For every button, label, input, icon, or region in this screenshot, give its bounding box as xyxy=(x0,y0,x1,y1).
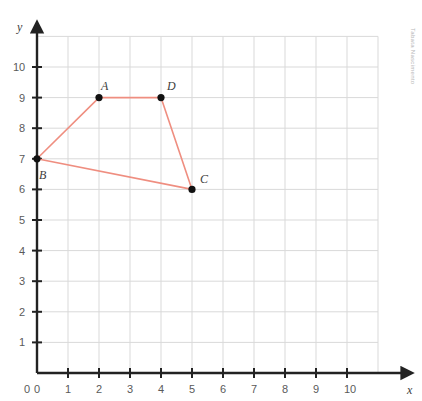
y-tick-label: 9 xyxy=(19,93,25,104)
point-label-d: D xyxy=(167,80,176,92)
origin-label: 0 xyxy=(24,384,30,395)
polygon-edges xyxy=(37,98,192,190)
plot-area xyxy=(0,0,422,401)
y-tick-label: 2 xyxy=(19,307,25,318)
x-axis-label: x xyxy=(407,384,412,396)
point-label-b: B xyxy=(39,169,46,181)
x-tick-label: 2 xyxy=(96,384,102,395)
x-tick-label: 7 xyxy=(251,384,257,395)
x-tick-label: 10 xyxy=(344,384,356,395)
coordinate-plane-figure: 012345678910123456789100 BADC x y Tabata… xyxy=(0,0,422,401)
y-tick-label: 4 xyxy=(19,246,25,257)
x-tick-label: 6 xyxy=(220,384,226,395)
y-tick-label: 10 xyxy=(13,62,25,73)
axis-lines xyxy=(37,30,404,373)
y-tick-label: 8 xyxy=(19,123,25,134)
grid-lines xyxy=(37,36,378,373)
x-tick-label: 0 xyxy=(34,384,40,395)
x-tick-label: 8 xyxy=(282,384,288,395)
x-tick-label: 3 xyxy=(127,384,133,395)
point-label-a: A xyxy=(101,80,108,92)
x-tick-label: 9 xyxy=(313,384,319,395)
y-tick-label: 1 xyxy=(19,337,25,348)
point-label-c: C xyxy=(200,173,208,185)
y-tick-label: 7 xyxy=(19,154,25,165)
x-tick-label: 1 xyxy=(65,384,71,395)
x-tick-label: 5 xyxy=(189,384,195,395)
y-axis-label: y xyxy=(17,21,22,33)
y-tick-label: 5 xyxy=(19,215,25,226)
watermark-credit: Tabata Nascimento xyxy=(410,28,416,84)
data-point-markers xyxy=(33,94,195,193)
axis-ticks xyxy=(32,67,347,378)
x-tick-label: 4 xyxy=(158,384,164,395)
y-tick-label: 6 xyxy=(19,184,25,195)
y-tick-label: 3 xyxy=(19,276,25,287)
